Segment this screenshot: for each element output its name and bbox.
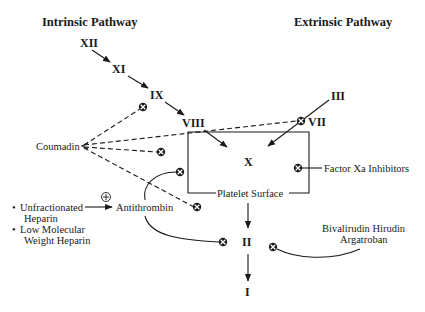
coumadin-to-ii-dashed bbox=[84, 148, 194, 207]
inhibit-ix-icon bbox=[139, 103, 147, 111]
inhibit-ii-antithrombin-icon bbox=[219, 238, 227, 246]
activation-plus-icon bbox=[102, 193, 111, 202]
arrow-xii-to-xi bbox=[92, 50, 110, 62]
factor-x: X bbox=[244, 155, 253, 169]
factor-xii: XII bbox=[80, 36, 98, 50]
direct-thrombin-label-line1: Bivalirudin Hirudin bbox=[322, 223, 406, 234]
heparin-item-2-line2: Weight Heparin bbox=[24, 235, 91, 246]
heparin-item-1-line1: Unfractionated bbox=[20, 202, 84, 213]
factor-i: I bbox=[245, 285, 250, 299]
inhibit-factor-xa-icon bbox=[294, 164, 302, 172]
direct-thrombin-curve bbox=[277, 249, 360, 257]
arrow-xi-to-ix bbox=[128, 76, 148, 88]
factor-viii: VIII bbox=[182, 116, 205, 130]
direct-thrombin-label-line2: Argatroban bbox=[340, 234, 388, 245]
antithrombin-to-x-curve bbox=[145, 172, 176, 200]
inhibit-ii-coumadin-icon bbox=[193, 203, 201, 211]
factor-vii: VII bbox=[308, 115, 326, 129]
antithrombin-label: Antithrombin bbox=[116, 202, 174, 213]
inhibit-vii-icon bbox=[297, 117, 305, 125]
heparin-bullet-1: • bbox=[12, 202, 16, 213]
inhibit-ii-direct-thrombin-icon bbox=[269, 243, 277, 251]
coagulation-cascade-diagram: Intrinsic Pathway Extrinsic Pathway XII … bbox=[0, 0, 425, 312]
factor-xi: XI bbox=[112, 62, 126, 76]
factor-ii: II bbox=[242, 235, 252, 249]
factor-xa-inhibitors-label: Factor Xa Inhibitors bbox=[324, 163, 409, 174]
extrinsic-pathway-title: Extrinsic Pathway bbox=[294, 15, 393, 29]
heparin-bullet-2: • bbox=[12, 224, 16, 235]
antithrombin-to-ii-curve bbox=[145, 216, 219, 242]
coumadin-label: Coumadin bbox=[36, 141, 80, 152]
inhibit-x-antithrombin-icon bbox=[176, 168, 184, 176]
heparin-item-2-line1: Low Molecular bbox=[20, 224, 86, 235]
factor-iii: III bbox=[331, 89, 345, 103]
coumadin-to-ix-dashed bbox=[84, 109, 140, 145]
arrow-ix-to-viii bbox=[165, 102, 184, 115]
coumadin-to-x-dashed bbox=[84, 147, 157, 152]
platelet-surface-label: Platelet Surface bbox=[217, 188, 284, 199]
inhibit-x-coumadin-icon bbox=[157, 148, 165, 156]
intrinsic-pathway-title: Intrinsic Pathway bbox=[42, 15, 138, 29]
factor-ix: IX bbox=[150, 88, 164, 102]
heparin-item-1-line2: Heparin bbox=[24, 213, 59, 224]
